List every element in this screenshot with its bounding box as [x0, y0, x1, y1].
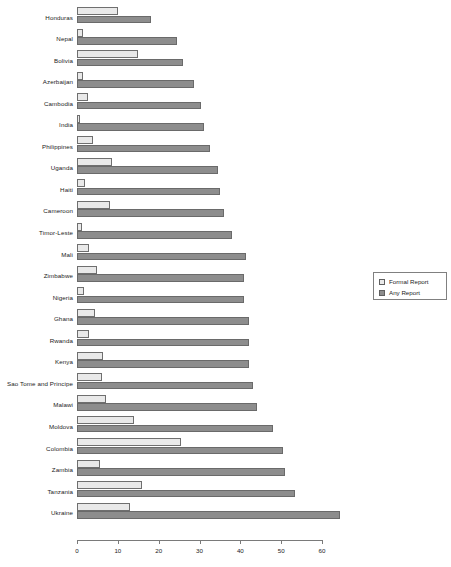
bar-row: Colombia — [0, 437, 451, 458]
category-label: Mali — [61, 250, 73, 257]
legend-swatch-any-report-icon — [379, 290, 385, 296]
bar-formal-report — [77, 158, 112, 166]
bar-any-report — [77, 382, 253, 390]
category-label: Zimbabwe — [44, 272, 73, 279]
category-label: Philippines — [42, 142, 73, 149]
bar-any-report — [77, 253, 246, 261]
bar-formal-report — [77, 50, 138, 58]
x-axis-tick — [159, 540, 160, 544]
bar-formal-report — [77, 330, 89, 338]
bar-row: Moldova — [0, 415, 451, 436]
category-label: Rwanda — [50, 336, 73, 343]
bar-formal-report — [77, 460, 100, 468]
x-axis-tick-label: 20 — [155, 547, 162, 554]
bar-row: Kenya — [0, 351, 451, 372]
category-label: Nigeria — [53, 293, 73, 300]
bar-row: Mali — [0, 243, 451, 264]
bar-formal-report — [77, 352, 103, 360]
bar-any-report — [77, 468, 285, 476]
bar-any-report — [77, 80, 194, 88]
category-label: India — [59, 121, 73, 128]
category-label: Nepal — [56, 35, 73, 42]
legend-label-formal-report: Formal Report — [389, 279, 429, 285]
x-axis-tick-label: 50 — [278, 547, 285, 554]
category-label: Haiti — [60, 185, 73, 192]
bar-any-report — [77, 447, 283, 455]
bar-formal-report — [77, 373, 102, 381]
bar-any-report — [77, 511, 340, 519]
bar-any-report — [77, 490, 295, 498]
bar-any-report — [77, 209, 224, 217]
bar-row: Honduras — [0, 6, 451, 27]
bar-formal-report — [77, 72, 83, 80]
bar-formal-report — [77, 287, 84, 295]
bar-any-report — [77, 425, 273, 433]
bar-row: India — [0, 114, 451, 135]
category-label: Sao Tome and Principe — [7, 379, 73, 386]
category-label: Tanzania — [47, 487, 73, 494]
bar-row: Uganda — [0, 157, 451, 178]
bar-formal-report — [77, 481, 142, 489]
category-label: Ukraine — [51, 509, 73, 516]
bar-row: Philippines — [0, 135, 451, 156]
category-label: Bolivia — [54, 56, 73, 63]
legend-swatch-formal-report-icon — [379, 279, 385, 285]
category-label: Cameroon — [43, 207, 73, 214]
category-label: Honduras — [45, 13, 73, 20]
x-axis-tick-label: 40 — [237, 547, 244, 554]
bar-row: Azerbaijan — [0, 71, 451, 92]
bar-any-report — [77, 102, 201, 110]
category-label: Moldova — [49, 422, 73, 429]
bar-formal-report — [77, 309, 95, 317]
bar-any-report — [77, 296, 244, 304]
legend-item-formal-report: Formal Report — [379, 277, 446, 287]
category-label: Ghana — [54, 315, 73, 322]
bar-any-report — [77, 231, 232, 239]
legend-label-any-report: Any Report — [389, 290, 420, 296]
bar-formal-report — [77, 244, 89, 252]
bar-row: Tanzania — [0, 480, 451, 501]
bar-any-report — [77, 317, 249, 325]
bar-formal-report — [77, 93, 88, 101]
bar-row: Haiti — [0, 178, 451, 199]
legend-item-any-report: Any Report — [379, 288, 446, 298]
bar-row: Cameroon — [0, 200, 451, 221]
bar-formal-report — [77, 266, 97, 274]
x-axis-tick — [77, 540, 78, 544]
bar-row: Rwanda — [0, 329, 451, 350]
bar-formal-report — [77, 179, 85, 187]
bar-any-report — [77, 274, 244, 282]
bar-any-report — [77, 123, 204, 131]
bar-row: Ukraine — [0, 502, 451, 523]
bar-row: Bolivia — [0, 49, 451, 70]
bar-row: Timor-Leste — [0, 222, 451, 243]
bar-formal-report — [77, 438, 181, 446]
bar-row: Malawi — [0, 394, 451, 415]
bar-row: Cambodia — [0, 92, 451, 113]
x-axis-tick — [240, 540, 241, 544]
plot-area: HondurasNepalBoliviaAzerbaijanCambodiaIn… — [0, 0, 451, 534]
x-axis-tick — [322, 540, 323, 544]
x-axis-tick-label: 10 — [114, 547, 121, 554]
bar-any-report — [77, 145, 210, 153]
category-label: Colombia — [46, 444, 73, 451]
category-label: Timor-Leste — [39, 229, 73, 236]
bar-any-report — [77, 188, 220, 196]
bar-row: Sao Tome and Principe — [0, 372, 451, 393]
bar-row: Zambia — [0, 459, 451, 480]
x-axis-tick-label: 30 — [196, 547, 203, 554]
x-axis-tick — [200, 540, 201, 544]
bar-formal-report — [77, 416, 134, 424]
bar-formal-report — [77, 115, 80, 123]
category-label: Cambodia — [44, 99, 73, 106]
horizontal-bar-chart: HondurasNepalBoliviaAzerbaijanCambodiaIn… — [0, 0, 451, 567]
category-label: Azerbaijan — [43, 78, 73, 85]
category-label: Malawi — [53, 401, 73, 408]
bar-any-report — [77, 166, 218, 174]
category-label: Zambia — [52, 466, 73, 473]
bar-formal-report — [77, 395, 106, 403]
bar-row: Ghana — [0, 308, 451, 329]
bar-any-report — [77, 59, 183, 67]
bar-any-report — [77, 339, 249, 347]
bar-any-report — [77, 16, 151, 24]
